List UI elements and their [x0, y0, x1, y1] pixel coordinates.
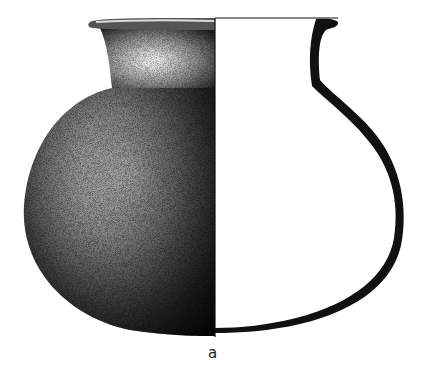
- exterior-body: [20, 85, 216, 340]
- profile-section: [215, 19, 404, 333]
- figure-caption: a: [0, 344, 425, 362]
- pottery-drawing: [0, 0, 425, 383]
- rim-exterior: [88, 18, 215, 30]
- exterior-neck: [100, 28, 215, 88]
